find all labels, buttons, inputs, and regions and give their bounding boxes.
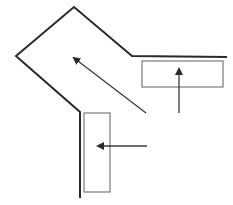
junction-outline [16, 7, 227, 198]
junction-diagram [0, 0, 233, 205]
arrows [74, 58, 179, 146]
diagonal-arrow-icon [74, 58, 146, 113]
right-rectangle [142, 61, 223, 87]
rectangles [84, 61, 223, 192]
bottom-rectangle [84, 113, 110, 192]
